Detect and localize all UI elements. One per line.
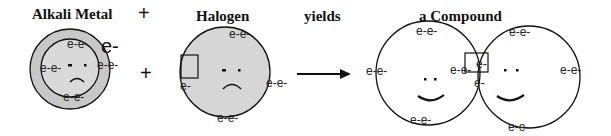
plus-sign-top: + xyxy=(138,2,150,24)
halogen-atom: e-e- e-e- e-e- e- xyxy=(180,27,287,125)
transferred-electron: e- xyxy=(476,57,487,71)
yields-label: yields xyxy=(304,8,341,24)
compound-molecule: e-e- e-e- e-e- e-e- e-e- e-e- e-e- e- e- xyxy=(366,21,581,134)
compound-right-single-electron: e- xyxy=(474,76,485,90)
compound-right-pair-top: e-e- xyxy=(509,25,530,39)
alkali-metal-title: Alkali Metal xyxy=(32,6,112,22)
compound-left-pair-left: e-e- xyxy=(366,64,387,78)
alkali-electron-pair-right: e-e- xyxy=(97,58,118,72)
compound-right-pair-bottom: e-e- xyxy=(508,120,529,134)
compound-left-pair-top: e-e- xyxy=(416,24,437,38)
alkali-valence-electron: e- xyxy=(101,35,119,57)
ionic-bond-diagram: Alkali Metal + Halogen yields a Compound… xyxy=(0,0,611,136)
halogen-electron-pair-top: e-e- xyxy=(229,27,250,41)
halogen-electron-pair-bottom: e-e- xyxy=(217,111,238,125)
happy-face-icon xyxy=(497,69,524,100)
alkali-electron-pair-top: e-e- xyxy=(67,37,88,51)
compound-shared-pair: e-e- xyxy=(450,63,471,77)
alkali-metal-atom: e-e- e-e- e-e- e-e- e- xyxy=(30,29,119,109)
compound-right-atom xyxy=(478,26,580,128)
happy-face-icon xyxy=(418,78,444,100)
halogen-electron-pair-right: e-e- xyxy=(266,76,287,90)
halogen-single-electron: e- xyxy=(180,79,191,93)
alkali-electron-pair-bottom: e-e- xyxy=(63,90,84,104)
compound-left-pair-bottom: e-e- xyxy=(410,113,431,127)
yields-arrow-icon xyxy=(297,69,351,79)
halogen-shell xyxy=(180,27,270,117)
alkali-electron-pair-left: e-e- xyxy=(40,61,61,75)
plus-sign-middle: + xyxy=(140,62,152,84)
compound-right-pair-right: e-e- xyxy=(560,63,581,77)
halogen-title: Halogen xyxy=(196,8,250,24)
